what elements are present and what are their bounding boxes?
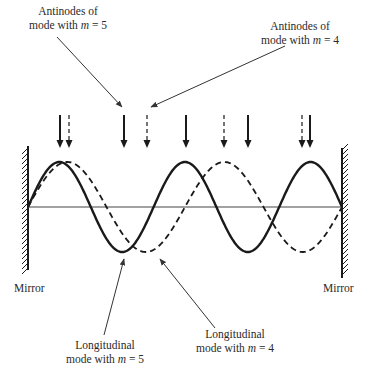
arrow-head-icon xyxy=(221,140,228,148)
pointer-antinodes-m4 xyxy=(151,46,285,107)
arrow-head-icon xyxy=(57,140,64,148)
label-antinodes-m5-line1: Antinodes of xyxy=(18,4,118,18)
arrow-head-icon xyxy=(121,140,128,148)
arrow-head-icon xyxy=(299,140,306,148)
arrow-head-icon xyxy=(183,140,190,148)
left-mirror xyxy=(22,146,28,274)
arrow-head-icon xyxy=(144,140,151,148)
arrow-head-icon xyxy=(245,140,252,148)
label-antinodes-m4: Antinodes of mode with m = 4 xyxy=(250,19,350,47)
cavity-modes-diagram xyxy=(0,0,367,378)
label-mode-m4: Longitudinal mode with m = 4 xyxy=(180,327,290,355)
antinode-arrows xyxy=(57,115,314,148)
label-mirror-right: Mirror xyxy=(323,281,354,295)
arrow-head-icon xyxy=(66,140,73,148)
pointer-mode-m5 xyxy=(104,259,124,335)
right-mirror xyxy=(342,144,348,278)
pointer-mode-m4 xyxy=(160,259,215,328)
label-mode-m5: Longitudinal mode with m = 5 xyxy=(50,338,160,366)
label-antinodes-m4-line1: Antinodes of xyxy=(250,19,350,33)
arrow-head-icon xyxy=(307,140,314,148)
pointer-antinodes-m5 xyxy=(57,37,122,107)
label-antinodes-m5: Antinodes of mode with m = 5 xyxy=(18,4,118,32)
label-mirror-left: Mirror xyxy=(14,281,45,295)
